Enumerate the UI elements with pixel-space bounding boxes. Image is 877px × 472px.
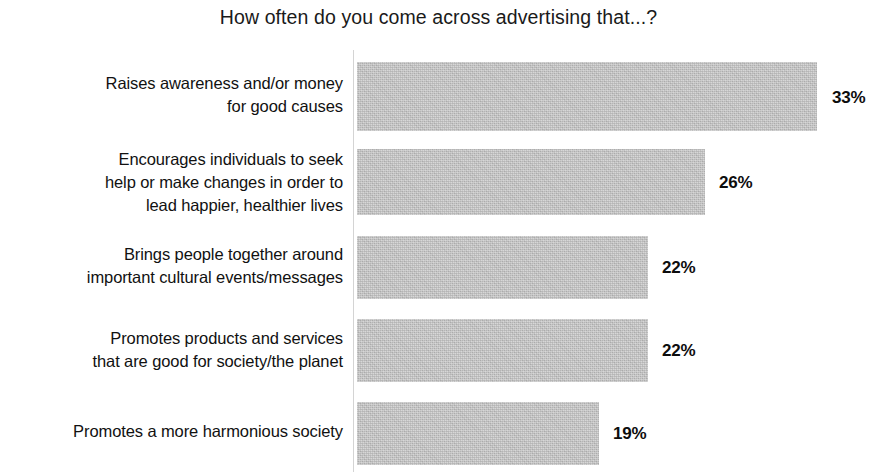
bar-category-label: Brings people together around important … — [13, 243, 343, 289]
bar-category-label: Encourages individuals to seek help or m… — [13, 148, 343, 217]
bar-category-label-line: important cultural events/messages — [13, 266, 343, 289]
bar-rect — [357, 402, 599, 465]
bar-value-label: 26% — [719, 173, 752, 193]
bar-category-label-line: lead happier, healthier lives — [13, 194, 343, 217]
plot-area: Raises awareness and/or money for good c… — [0, 0, 877, 472]
bar-category-label-line: Encourages individuals to seek — [13, 148, 343, 171]
bar-category-label-line: Brings people together around — [13, 243, 343, 266]
bar-value-label: 22% — [662, 341, 695, 361]
bar-category-label: Raises awareness and/or money for good c… — [13, 72, 343, 118]
bar-category-label: Promotes a more harmonious society — [13, 420, 343, 443]
bar-category-label-line: that are good for society/the planet — [13, 350, 343, 373]
bar-category-label-line: Promotes products and services — [13, 327, 343, 350]
bar-value-label: 33% — [832, 88, 865, 108]
bar-category-label-line: Promotes a more harmonious society — [13, 420, 343, 443]
bar-category-label: Promotes products and services that are … — [13, 327, 343, 373]
bar-rect — [357, 319, 648, 382]
bar-category-label-line: for good causes — [13, 95, 343, 118]
category-axis-line — [353, 50, 354, 472]
bar-chart-figure: How often do you come across advertising… — [0, 0, 877, 472]
bar-category-label-line: help or make changes in order to — [13, 171, 343, 194]
bar-category-label-line: Raises awareness and/or money — [13, 72, 343, 95]
bar-rect — [357, 62, 817, 131]
bar-value-label: 22% — [662, 258, 695, 278]
bar-rect — [357, 149, 705, 215]
bar-rect — [357, 236, 648, 299]
bar-value-label: 19% — [613, 424, 646, 444]
